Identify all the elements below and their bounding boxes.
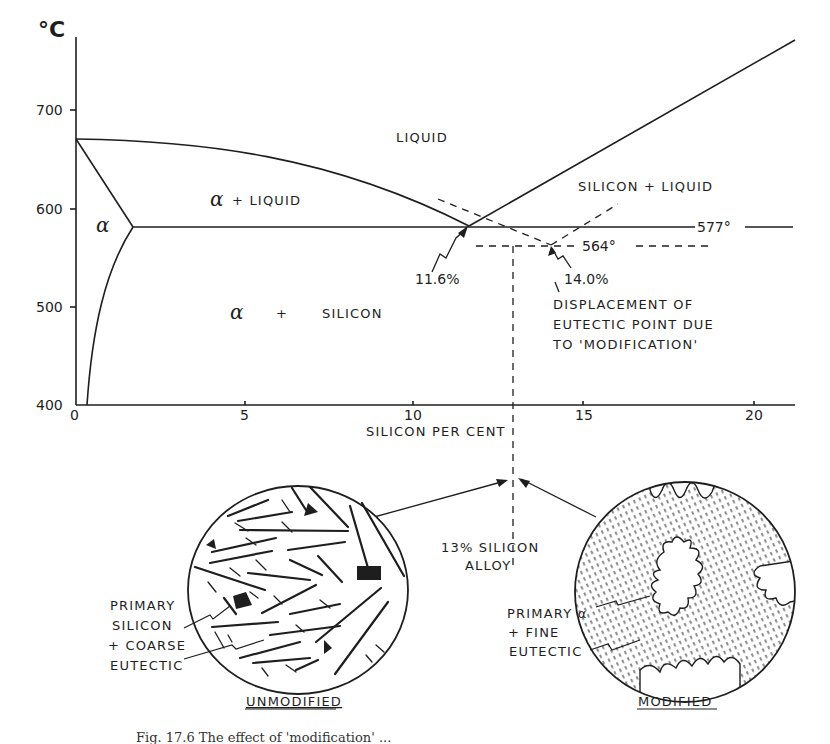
- y-tick-700: 700: [36, 102, 63, 118]
- displacement-note-2: EUTECTIC POINT DUE: [553, 317, 714, 332]
- displacement-note-1: DISPLACEMENT OF: [553, 297, 693, 312]
- alloy-label-2: ALLOY: [465, 558, 511, 573]
- x-tick-0: 0: [70, 407, 79, 423]
- liquidus-al-curve: [76, 139, 469, 226]
- modified-label-3: EUTECTIC: [509, 644, 582, 659]
- phase-diagram-figure: °C 700 600 500 400 0 5 10 15 20 SILICON …: [0, 0, 830, 744]
- unmodified-label-1: PRIMARY: [110, 598, 175, 613]
- unmodified-micrograph: [188, 486, 408, 694]
- modified-title: MODIFIED: [638, 694, 712, 709]
- region-liquid: LIQUID: [396, 130, 448, 145]
- unmodified-label-3: + COARSE: [108, 638, 186, 653]
- x-tick-15: 15: [575, 407, 593, 423]
- alloy-label-1: 13% SILICON: [441, 540, 539, 555]
- arrow-modified: [521, 479, 596, 517]
- eutectic-comp-label: 11.6%: [415, 271, 459, 287]
- figure-caption: Fig. 17.6 The effect of 'modification' .…: [136, 730, 391, 744]
- region-silicon-liquid: SILICON + LIQUID: [578, 179, 713, 194]
- x-tick-10: 10: [404, 407, 422, 423]
- x-axis-label: SILICON PER CENT: [366, 424, 506, 439]
- solvus-curve: [87, 227, 133, 405]
- unmodified-label-2: SILICON: [112, 618, 173, 633]
- y-tick-600: 600: [36, 201, 63, 217]
- modified-comp-label: 14.0%: [564, 271, 608, 287]
- y-tick-500: 500: [36, 299, 63, 315]
- modified-temp-label: 564°: [582, 238, 616, 254]
- region-alpha-silicon: SILICON: [322, 306, 383, 321]
- eutectic-temp-label: 577°: [697, 219, 731, 235]
- modified-micrograph: [575, 470, 800, 720]
- region-alpha: α: [96, 213, 110, 237]
- y-tick-400: 400: [36, 397, 63, 413]
- region-alpha-silicon-plus: +: [276, 306, 288, 321]
- region-alpha-silicon-symbol: α: [230, 300, 244, 324]
- unmodified-label-4: EUTECTIC: [110, 658, 183, 673]
- region-alpha-liquid: + LIQUID: [232, 193, 301, 208]
- x-tick-20: 20: [745, 407, 763, 423]
- y-unit-label: °C: [38, 17, 65, 42]
- liquidus-si-line: [469, 40, 795, 226]
- displacement-note-3: TO 'MODIFICATION': [552, 337, 698, 352]
- modified-label-1: PRIMARY α: [507, 606, 587, 621]
- unmodified-title: UNMODIFIED: [246, 694, 342, 709]
- x-tick-5: 5: [240, 407, 249, 423]
- modified-label-2: + FINE: [508, 625, 559, 640]
- region-alpha-liquid-symbol: α: [210, 187, 224, 211]
- modified-liquidus-left: [438, 199, 551, 245]
